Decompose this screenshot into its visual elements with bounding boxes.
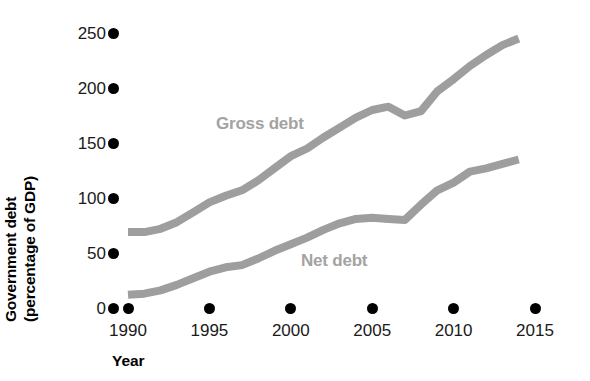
series-label-gross-debt: Gross debt	[216, 114, 304, 134]
x-tick-dot-1990	[123, 303, 134, 314]
x-tick-label-2005: 2005	[353, 322, 391, 339]
x-tick-dot-2005	[367, 303, 378, 314]
y-tick-dot-50	[108, 248, 119, 259]
y-tick-dot-150	[108, 138, 119, 149]
y-tick-label-100: 100	[48, 190, 106, 207]
x-tick-label-2010: 2010	[435, 322, 473, 339]
series-label-net-debt: Net debt	[301, 251, 367, 271]
y-axis-tick-labels: 050100150200250	[48, 0, 106, 340]
y-tick-dot-200	[108, 83, 119, 94]
y-tick-label-150: 150	[48, 135, 106, 152]
x-tick-label-2000: 2000	[272, 322, 310, 339]
x-tick-dot-2000	[285, 303, 296, 314]
y-axis-title-line-1: Government debt	[2, 197, 20, 322]
y-tick-label-250: 250	[48, 25, 106, 42]
y-axis-title-line-2: (percentage of GDP)	[21, 176, 39, 322]
y-tick-dot-250	[108, 28, 119, 39]
series-line-net-debt	[128, 160, 519, 295]
x-tick-label-1995: 1995	[190, 322, 228, 339]
y-tick-dot-100	[108, 193, 119, 204]
y-tick-label-200: 200	[48, 80, 106, 97]
x-tick-label-2015: 2015	[516, 322, 554, 339]
y-tick-label-0: 0	[48, 300, 106, 317]
x-tick-dot-2015	[530, 303, 541, 314]
chart-figure: Government debt (percentage of GDP) 0501…	[0, 0, 590, 381]
y-tick-dot-0	[108, 303, 119, 314]
x-axis-title: Year	[112, 352, 144, 370]
x-tick-label-1990: 1990	[109, 322, 147, 339]
series-line-gross-debt	[128, 39, 519, 233]
x-tick-dot-1995	[204, 303, 215, 314]
y-tick-label-50: 50	[48, 245, 106, 262]
x-tick-dot-2010	[448, 303, 459, 314]
